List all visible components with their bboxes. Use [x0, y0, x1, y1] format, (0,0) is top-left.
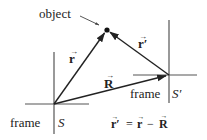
vector-r-prime-arrow-accent: →	[139, 32, 147, 41]
frame-s-word: frame	[10, 115, 41, 130]
frame-s-symbol: S	[58, 115, 65, 130]
equation: r′ → = r → − R →	[111, 112, 168, 131]
frame-s-label: frame S	[10, 115, 65, 130]
vector-R-arrow-accent: →	[106, 71, 114, 80]
equation-term-R-arrow-accent: →	[161, 112, 168, 120]
equation-term-r-arrow-accent: →	[138, 113, 145, 121]
equation-lhs-arrow-accent: →	[112, 113, 119, 121]
equation-equals: =	[126, 117, 133, 131]
vector-r-label: r →	[69, 47, 78, 66]
object-leader-arrow	[80, 16, 99, 25]
frame-s-prime-label: frame S′	[130, 86, 182, 101]
object-label: object	[39, 6, 71, 21]
frame-s-prime-word: frame	[130, 86, 161, 101]
frame-s-prime-symbol: S′	[172, 86, 182, 101]
vector-r-prime-label: r′ →	[138, 32, 147, 51]
vector-r-arrow-accent: →	[70, 47, 78, 56]
object-dot	[104, 27, 109, 32]
equation-minus: −	[147, 117, 154, 131]
vector-R-label: R →	[104, 71, 114, 91]
reference-frames-diagram: object r → r′ → R → frame S frame S′ r′ …	[0, 0, 207, 140]
